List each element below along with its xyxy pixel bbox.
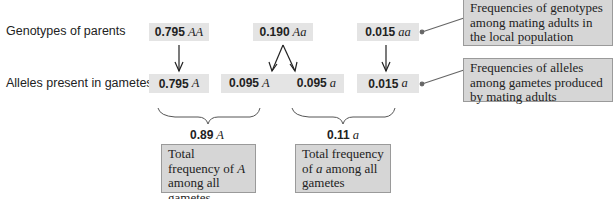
- caption-total-A: Total frequency of A among all gametes: [161, 144, 256, 193]
- brace-A: [158, 108, 260, 124]
- callout-dot-icon: [420, 30, 424, 34]
- arrow-Aa-to-a: [283, 45, 295, 71]
- callout-line-genotypes: [422, 18, 464, 32]
- callout-line-alleles: [422, 70, 464, 84]
- caption-total-a: Total frequency of a among all gametes: [295, 144, 391, 193]
- total-A: 0.89A: [190, 128, 224, 143]
- callout-alleles: Frequencies of alleles among gametes pro…: [463, 58, 613, 102]
- brace-a: [292, 108, 395, 124]
- arrow-Aa-to-A: [272, 45, 283, 71]
- callout-dot-icon: [420, 82, 424, 86]
- total-a: 0.11a: [327, 128, 359, 143]
- callout-genotypes: Frequencies of genotypes among mating ad…: [463, 0, 613, 46]
